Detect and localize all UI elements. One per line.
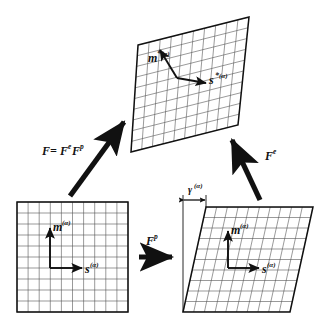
slip-direction-vector-current-arrow: [177, 78, 206, 83]
m-symbol-intermediate: m: [231, 223, 240, 237]
alpha-superscript-gamma: (α): [194, 182, 203, 190]
deformation-gradient-diagram: m * (α) s * (α): [0, 0, 328, 333]
alpha-superscript-m: (α): [62, 219, 71, 227]
equals-symbol: =: [50, 144, 57, 158]
elastic-deformation-label: F e: [264, 147, 277, 163]
slip-direction-vector-current-label: s * (α): [208, 71, 228, 87]
F-symbol-plastic-inline: F: [71, 144, 80, 158]
total-deformation-arrow: [70, 122, 124, 196]
superscript-p-inline: p: [79, 142, 84, 151]
m-symbol: m: [53, 220, 62, 234]
alpha-superscript-s: (α): [90, 261, 99, 269]
superscript-e: e: [273, 147, 277, 156]
s-star-symbol: s: [208, 73, 214, 87]
elastic-deformation-arrow: [232, 140, 260, 200]
alpha-superscript-s-intermediate: (α): [267, 261, 276, 269]
slip-normal-vector-label-intermediate: m (α): [231, 222, 249, 237]
slip-direction-vector-label: s (α): [84, 261, 99, 276]
alpha-superscript-m-intermediate: (α): [240, 222, 249, 230]
plastic-deformation-label: F p: [145, 232, 158, 248]
F-symbol-elastic: F: [264, 149, 273, 163]
shear-strain-indicator: γ (α): [183, 182, 206, 312]
reference-configuration-body: [17, 202, 128, 312]
reference-configuration-grid: [17, 202, 128, 312]
superscript-p: p: [153, 232, 158, 241]
F-symbol-plastic: F: [145, 234, 154, 248]
gamma-symbol: γ: [188, 184, 193, 195]
current-configuration-body: [131, 17, 249, 152]
reference-configuration-vectors: [50, 228, 82, 268]
alpha-superscript-s-star: (α): [219, 72, 228, 80]
F-symbol-elastic-inline: F: [59, 144, 68, 158]
m-star-symbol: m: [148, 51, 157, 65]
figure-canvas: m * (α) s * (α): [0, 0, 328, 333]
current-configuration-grid: [131, 17, 249, 152]
slip-normal-vector-label: m (α): [53, 219, 71, 234]
F-symbol-total: F: [41, 144, 50, 158]
slip-direction-vector-label-intermediate: s (α): [261, 261, 276, 276]
total-deformation-label: F = F e F p: [41, 142, 84, 158]
alpha-superscript-m-star: (α): [161, 50, 170, 58]
